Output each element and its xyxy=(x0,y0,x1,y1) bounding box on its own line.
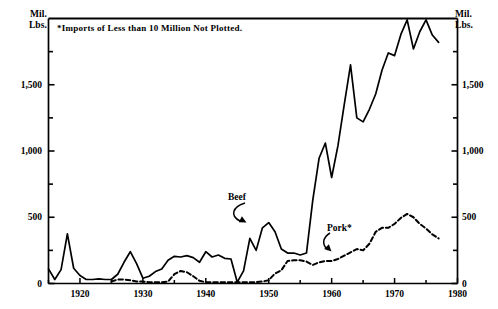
x-tick-label: 1940 xyxy=(186,289,226,299)
axis-ticks xyxy=(49,52,458,284)
series-line-beef xyxy=(49,20,439,282)
y-tick-label-right: 500 xyxy=(462,212,496,222)
series-line-pork xyxy=(111,214,438,282)
y-tick-label-left: 1,000 xyxy=(8,146,42,156)
data-series xyxy=(49,20,439,282)
y-tick-label-left: 500 xyxy=(8,212,42,222)
y-tick-label-left: 0 xyxy=(8,279,42,289)
x-tick-label: 1970 xyxy=(375,289,415,299)
x-tick-label: 1960 xyxy=(312,289,352,299)
chart-container: Mil. Lbs. Mil. Lbs. *Imports of Less tha… xyxy=(0,0,498,309)
y-tick-label-right: 1,500 xyxy=(462,80,496,90)
chart-plot-area xyxy=(0,0,498,309)
y-tick-label-left: 1,500 xyxy=(8,80,42,90)
x-tick-label: 1920 xyxy=(60,289,100,299)
x-tick-label: 1930 xyxy=(123,289,163,299)
x-tick-label: 1980 xyxy=(438,289,478,299)
y-tick-label-right: 1,000 xyxy=(462,146,496,156)
x-tick-label: 1950 xyxy=(249,289,289,299)
y-tick-label-right: 0 xyxy=(462,279,496,289)
